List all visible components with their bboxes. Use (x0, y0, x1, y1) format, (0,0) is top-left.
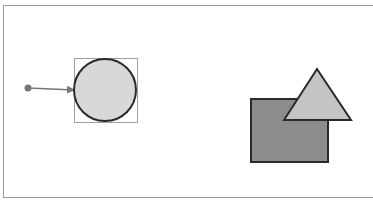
circle-shape[interactable] (74, 59, 136, 121)
triangle-shape[interactable] (284, 69, 351, 120)
connector-start-dot[interactable] (25, 85, 32, 92)
connector-arrow[interactable] (28, 88, 74, 90)
